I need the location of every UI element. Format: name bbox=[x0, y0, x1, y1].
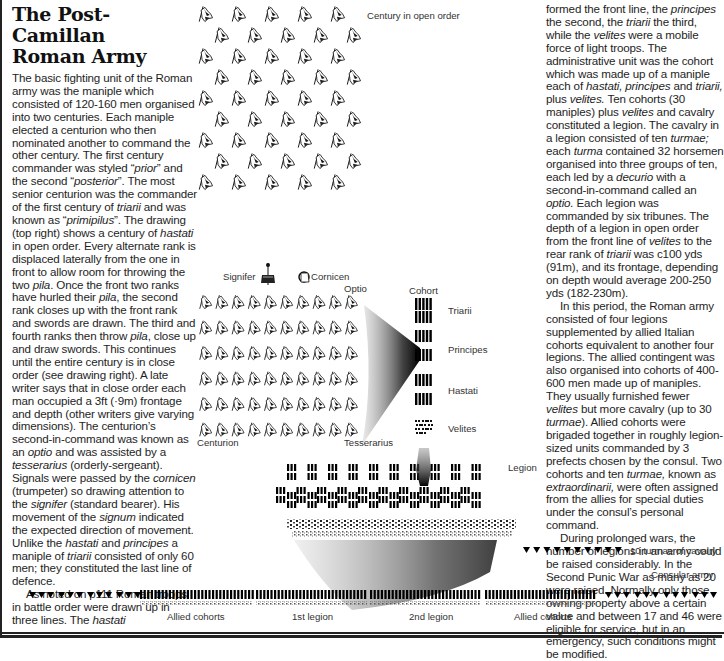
soldier-icon bbox=[232, 132, 245, 147]
soldier-icon bbox=[199, 174, 212, 189]
maniple-bar bbox=[455, 473, 457, 480]
cavalry-triangle bbox=[652, 592, 659, 598]
velites-dot bbox=[418, 428, 420, 430]
cohort-bar bbox=[339, 590, 341, 599]
cohort-bar bbox=[507, 590, 509, 599]
soldier-icon bbox=[347, 111, 360, 126]
cohort-bar bbox=[413, 590, 415, 599]
army-diagram bbox=[2, 0, 724, 638]
velites-dot bbox=[430, 428, 432, 430]
cohort-bar bbox=[442, 590, 444, 599]
maniple-bar bbox=[472, 464, 474, 471]
maniple-bar bbox=[315, 501, 317, 508]
cavalry-triangle bbox=[564, 547, 571, 553]
cohort-bar bbox=[571, 590, 573, 599]
cohort-bar bbox=[350, 590, 352, 599]
soldier-icon bbox=[346, 321, 358, 335]
soldier-icon bbox=[346, 372, 358, 386]
maniple-bar bbox=[349, 464, 351, 471]
cohort-bar bbox=[151, 590, 153, 599]
maniple-bar bbox=[419, 330, 421, 342]
cohort-bar bbox=[328, 590, 330, 599]
cavalry-triangle bbox=[672, 592, 679, 598]
maniple-bar bbox=[475, 473, 477, 480]
maniple-bar bbox=[422, 374, 424, 386]
soldier-icon bbox=[329, 295, 341, 309]
velites-dot bbox=[419, 432, 421, 434]
cavalry-triangle bbox=[574, 547, 581, 553]
soldier-icon bbox=[265, 397, 277, 411]
soldier-icon bbox=[265, 295, 277, 309]
maniple-bar bbox=[315, 464, 317, 471]
soldier-icon bbox=[232, 90, 245, 105]
cohort-bar bbox=[360, 590, 362, 599]
soldier-icon bbox=[281, 372, 293, 386]
maniple-bar bbox=[358, 496, 360, 503]
maniple-bar bbox=[447, 487, 449, 494]
maniple-bar bbox=[365, 487, 367, 494]
maniple-bar bbox=[379, 487, 381, 494]
soldier-icon bbox=[329, 321, 341, 335]
cohort-bar bbox=[260, 590, 262, 599]
soldier-icon bbox=[329, 346, 341, 360]
soldier-icon bbox=[346, 346, 358, 360]
soldier-icon bbox=[297, 346, 309, 360]
maniple-bar bbox=[434, 464, 436, 471]
cohort-bar bbox=[543, 590, 545, 599]
maniple-bar bbox=[429, 311, 431, 323]
cavalry-triangle bbox=[605, 547, 612, 553]
soldier-icon bbox=[248, 372, 260, 386]
soldier-icon bbox=[199, 48, 212, 63]
maniple-bar bbox=[291, 492, 293, 499]
legion-velites-strip bbox=[286, 519, 516, 529]
cavalry-turmae bbox=[523, 547, 622, 553]
maniple-bar bbox=[345, 487, 347, 494]
maniple-bar bbox=[276, 487, 278, 494]
soldier-icon bbox=[200, 397, 212, 411]
cohort-bar bbox=[521, 590, 523, 599]
maniple-bar bbox=[415, 349, 417, 361]
soldier-icon bbox=[313, 321, 325, 335]
soldier-icon bbox=[265, 48, 278, 63]
cavalry-triangle bbox=[76, 592, 83, 598]
maniple-bar bbox=[341, 487, 343, 494]
cohort-bar bbox=[492, 590, 494, 599]
maniple-bar bbox=[427, 487, 429, 494]
maniple-bar bbox=[431, 501, 433, 508]
cohort-bar bbox=[216, 590, 218, 599]
maniple-bar bbox=[332, 464, 334, 471]
maniple-bar bbox=[300, 496, 302, 503]
maniple-bar bbox=[397, 492, 399, 499]
soldier-icon bbox=[281, 69, 294, 84]
cavalry-triangle bbox=[692, 592, 699, 598]
velites-dot bbox=[425, 420, 427, 422]
maniple-bar bbox=[332, 492, 334, 499]
soldier-icon bbox=[331, 48, 344, 63]
maniple-bar bbox=[324, 487, 326, 494]
cohort-bar bbox=[410, 590, 412, 599]
cavalry-triangle bbox=[623, 592, 630, 598]
maniple-bar bbox=[461, 496, 463, 503]
cohort-bar bbox=[288, 590, 290, 599]
maniple-bar bbox=[414, 473, 416, 480]
soldier-icon bbox=[216, 423, 228, 437]
cohort-bar bbox=[176, 590, 178, 599]
soldier-icon bbox=[281, 423, 293, 437]
maniple-bar bbox=[434, 473, 436, 480]
maniple-bar bbox=[352, 473, 354, 480]
soldier-icon bbox=[265, 346, 277, 360]
cavalry-triangle bbox=[47, 592, 54, 598]
maniple-bar bbox=[414, 501, 416, 508]
maniple-bar bbox=[444, 487, 446, 494]
maniple-bar bbox=[308, 492, 310, 499]
cavalry-triangle bbox=[634, 592, 641, 598]
maniple-bar bbox=[379, 496, 381, 503]
cohort-bar bbox=[532, 590, 534, 599]
maniple-bar bbox=[308, 473, 310, 480]
maniple-bar bbox=[311, 492, 313, 499]
cohort-bar bbox=[274, 590, 276, 599]
soldier-icon bbox=[314, 27, 327, 42]
cohort-bar bbox=[190, 590, 192, 599]
maniple-bar bbox=[338, 496, 340, 503]
